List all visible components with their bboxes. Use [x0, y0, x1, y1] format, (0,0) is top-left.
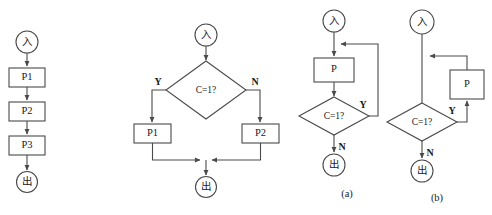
- diagram-sequence: 入 P1 P2 P3 出: [9, 31, 45, 193]
- end-terminator-sel-label: 出: [201, 180, 211, 192]
- process-box-p1-label: P1: [21, 71, 32, 82]
- decision-diamond-sel-label: C=1?: [196, 85, 217, 95]
- diagram-while-do: 入 C=1? Y N P 出 (b): [387, 10, 484, 204]
- branch-label-yes-dowhile: Y: [359, 99, 367, 110]
- flowchart-canvas: 入 P1 P2 P3 出 入 C=1? Y N: [0, 0, 492, 215]
- connector-p1-to-merge: [153, 143, 201, 160]
- start-terminator-whiledo-label: 入: [417, 16, 428, 27]
- process-box-dowhile-p-label: P: [331, 63, 337, 74]
- connector-process-loop-back-whiledo: [430, 56, 467, 70]
- diagram-selection: 入 C=1? Y N P1 P2 出: [134, 24, 279, 198]
- end-terminator-seq-label: 出: [22, 175, 32, 187]
- branch-label-no-sel: N: [251, 76, 259, 87]
- branch-label-no-dowhile: N: [338, 141, 346, 152]
- connector-yes-to-process-whiledo: [457, 101, 467, 122]
- flowchart-figure: 入 P1 P2 P3 出 入 C=1? Y N: [0, 0, 492, 215]
- end-terminator-whiledo-label: 出: [417, 164, 427, 176]
- decision-diamond-dowhile-label: C=1?: [324, 111, 345, 121]
- caption-do-while: (a): [341, 188, 353, 200]
- start-terminator-seq-label: 入: [22, 36, 33, 47]
- start-terminator-sel-label: 入: [201, 29, 212, 40]
- branch-label-yes-sel: Y: [154, 76, 162, 87]
- process-box-sel-p2-label: P2: [255, 127, 266, 138]
- process-box-p2-label: P2: [21, 105, 32, 116]
- diagram-do-while: 入 P C=1? Y N 出 (a): [299, 10, 378, 200]
- decision-diamond-whiledo-label: C=1?: [412, 117, 433, 127]
- end-terminator-dowhile-label: 出: [329, 158, 339, 170]
- process-box-whiledo-p-label: P: [464, 78, 470, 89]
- process-box-p3-label: P3: [21, 139, 32, 150]
- start-terminator-dowhile-label: 入: [329, 15, 340, 26]
- process-box-sel-p1-label: P1: [147, 127, 158, 138]
- branch-label-yes-whiledo: Y: [448, 105, 456, 116]
- connector-p2-to-merge: [212, 143, 261, 160]
- caption-while-do: (b): [431, 192, 444, 204]
- branch-label-no-whiledo: N: [426, 147, 434, 158]
- connector-yes-to-p1: [152, 90, 166, 122]
- connector-no-to-p2: [246, 90, 260, 122]
